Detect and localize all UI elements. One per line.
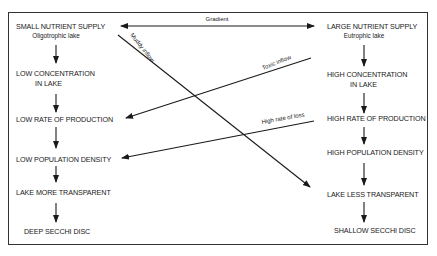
node-low-concentration: LOW CONCENTRATION (16, 69, 95, 78)
node-low-concentration-line2: IN LAKE (35, 79, 62, 88)
gradient-label: Gradient (205, 16, 228, 22)
node-oligotrophic-lake: Oligotrophic lake (32, 32, 80, 40)
node-high-rate-of-production: HIGH RATE OF PRODUCTION (327, 114, 426, 123)
node-high-concentration-line2: IN LAKE (350, 80, 377, 89)
node-high-concentration: HIGH CONCENTRATION (327, 70, 407, 79)
node-low-population-density: LOW POPULATION DENSITY (16, 155, 111, 164)
node-small-nutrient-supply: SMALL NUTRIENT SUPPLY (16, 22, 106, 31)
node-lake-less-transparent: LAKE LESS TRANSPARENT (327, 190, 419, 199)
node-deep-secchi-disc: DEEP SECCHI DISC (24, 227, 90, 236)
node-eutrophic-lake: Eutrophic lake (344, 32, 385, 40)
node-lake-more-transparent: LAKE MORE TRANSPARENT (16, 188, 111, 197)
node-shallow-secchi-disc: SHALLOW SECCHI DISC (334, 226, 416, 235)
node-large-nutrient-supply: LARGE NUTRIENT SUPPLY (327, 22, 418, 31)
nutrient-gradient-diagram: Gradient SMALL NUTRIENT SUPPLY Oligotrop… (0, 0, 437, 256)
diagram-frame (9, 13, 428, 245)
node-low-rate-of-production: LOW RATE OF PRODUCTION (16, 115, 113, 124)
node-high-population-density: HIGH POPULATION DENSITY (327, 148, 424, 157)
